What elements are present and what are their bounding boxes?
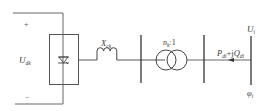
reactor-icon	[97, 48, 117, 60]
hvdc-converter-diagram: + − Udk Xck nk:1 Pdi+jQdi Ui φi	[0, 0, 266, 111]
ac-voltage-label: Ui	[247, 24, 256, 35]
ac-angle-label: φi	[247, 88, 254, 99]
power-flow-arrow-icon	[228, 58, 234, 62]
plus-sign: +	[24, 20, 29, 29]
circuit-svg: + − Udk Xck nk:1 Pdi+jQdi Ui φi	[0, 0, 266, 111]
transformer-ratio-label: nk:1	[163, 38, 176, 48]
converter-box	[50, 35, 79, 85]
minus-sign: −	[25, 93, 30, 102]
dc-voltage-label: Udk	[19, 55, 31, 66]
power-flow-label: Pdi+jQdi	[216, 48, 245, 59]
reactor-label: Xck	[100, 38, 112, 49]
